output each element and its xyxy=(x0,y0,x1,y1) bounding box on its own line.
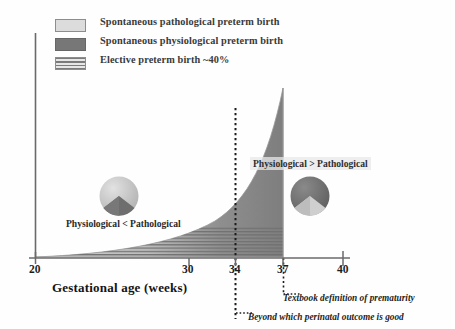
elective-hatch-band xyxy=(35,226,283,257)
x-axis-title: Gestational age (weeks) xyxy=(52,280,187,296)
annotation-textbook-definition: Textbook definition of prematurity xyxy=(283,293,415,303)
x-tick-label-20: 20 xyxy=(29,263,41,275)
x-tick-label-40: 40 xyxy=(337,263,349,275)
x-tick-label-30: 30 xyxy=(182,263,194,275)
x-tick-label-37: 37 xyxy=(277,263,289,275)
pie-chart-right xyxy=(291,177,330,216)
chart-figure: Spontaneous pathological preterm birth S… xyxy=(0,0,455,329)
annotation-physiological-greater: Physiological > Pathological xyxy=(250,157,371,170)
pie-chart-left xyxy=(100,177,139,216)
x-tick-label-34: 34 xyxy=(229,263,241,275)
annotation-physiological-less: Physiological < Pathological xyxy=(66,218,181,229)
annotation-perinatal-outcome: Beyond which perinatal outcome is good xyxy=(248,312,404,322)
